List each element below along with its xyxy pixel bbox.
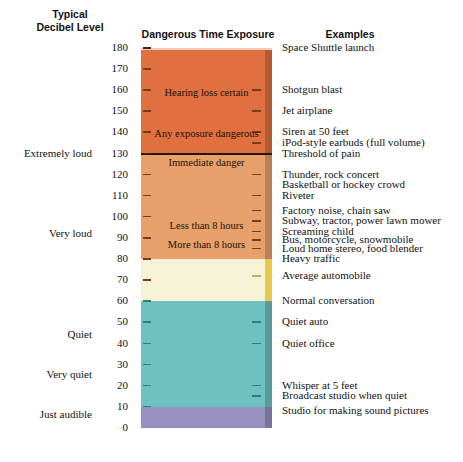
- example-label-2: Jet airplane: [282, 104, 332, 116]
- axis-tick-right-20: [252, 385, 261, 387]
- category-label-very-quiet: Very quiet: [0, 368, 92, 380]
- axis-tick-label-140: 140: [96, 125, 128, 137]
- exposure-label-2: Immediate danger: [141, 157, 272, 168]
- example-label-21: Studio for making sound pictures: [282, 404, 429, 416]
- band-quiet: [141, 301, 272, 407]
- axis-tick-label-0: 0: [96, 421, 128, 433]
- axis-tick-left-50: [143, 321, 151, 323]
- decibel-color-bar: [141, 48, 272, 428]
- bar-top-highlight: [141, 48, 272, 50]
- axis-tick-label-150: 150: [96, 104, 128, 116]
- example-label-5: Threshold of pain: [282, 147, 360, 159]
- exposure-label-3: Less than 8 hours: [141, 220, 272, 231]
- example-label-14: Heavy traffic: [282, 252, 340, 264]
- axis-tick-right-110: [252, 195, 261, 197]
- band-bevel-quiet: [265, 301, 272, 407]
- axis-tick-left-100: [143, 216, 151, 218]
- axis-tick-label-10: 10: [96, 400, 128, 412]
- axis-tick-left-40: [143, 343, 151, 345]
- category-label-quiet: Quiet: [0, 328, 92, 340]
- axis-tick-left-120: [143, 174, 151, 176]
- band-just-audible: [141, 407, 272, 428]
- axis-tick-label-20: 20: [96, 379, 128, 391]
- axis-tick-label-130: 130: [96, 147, 128, 159]
- axis-tick-left-90: [143, 237, 151, 239]
- axis-tick-label-60: 60: [96, 294, 128, 306]
- axis-tick-right-103: [252, 210, 261, 212]
- example-label-17: Quiet auto: [282, 315, 328, 327]
- axis-tick-left-150: [143, 110, 151, 112]
- category-label-very-loud: Very loud: [0, 227, 92, 239]
- axis-tick-left-110: [143, 195, 151, 197]
- axis-tick-label-180: 180: [96, 41, 128, 53]
- axis-tick-left-130: [143, 153, 151, 155]
- axis-tick-label-70: 70: [96, 273, 128, 285]
- divider-line-130db: [141, 153, 272, 155]
- axis-tick-right-135: [252, 142, 261, 144]
- band-bevel-moderate: [265, 259, 272, 301]
- axis-tick-right-150: [252, 110, 261, 112]
- example-label-1: Shotgun blast: [282, 83, 342, 95]
- example-label-16: Normal conversation: [282, 294, 375, 306]
- axis-tick-label-100: 100: [96, 210, 128, 222]
- axis-tick-left-180: [143, 47, 151, 49]
- axis-tick-left-70: [143, 279, 151, 281]
- axis-tick-label-120: 120: [96, 168, 128, 180]
- axis-tick-left-30: [143, 364, 151, 366]
- band-moderate: [141, 259, 272, 301]
- axis-tick-left-20: [143, 385, 151, 387]
- axis-tick-label-50: 50: [96, 315, 128, 327]
- axis-tick-label-90: 90: [96, 231, 128, 243]
- example-label-0: Space Shuttle launch: [282, 41, 374, 53]
- axis-tick-label-160: 160: [96, 83, 128, 95]
- axis-tick-label-170: 170: [96, 62, 128, 74]
- example-label-15: Average automobile: [282, 269, 371, 281]
- axis-tick-left-80: [143, 258, 151, 260]
- axis-tick-label-30: 30: [96, 358, 128, 370]
- axis-tick-label-110: 110: [96, 189, 128, 201]
- category-label-just-audible: Just audible: [0, 408, 92, 420]
- band-bevel-just-audible: [265, 407, 272, 428]
- axis-tick-right-72: [252, 275, 261, 277]
- axis-tick-left-170: [143, 68, 151, 70]
- example-label-20: Broadcast studio when quiet: [282, 389, 407, 401]
- example-label-18: Quiet office: [282, 337, 335, 349]
- axis-tick-left-60: [143, 300, 151, 302]
- example-label-8: Riveter: [282, 189, 314, 201]
- axis-tick-label-40: 40: [96, 337, 128, 349]
- exposure-label-0: Hearing loss certain: [141, 87, 272, 98]
- axis-tick-right-120: [252, 174, 261, 176]
- axis-tick-right-40: [252, 343, 261, 345]
- exposure-label-1: Any exposure dangerous: [141, 128, 272, 139]
- decibel-scale-chart: 0102030405060708090100110120130140150160…: [0, 0, 463, 462]
- category-label-extremely-loud: Extremely loud: [0, 147, 92, 159]
- axis-tick-right-15: [252, 395, 261, 397]
- exposure-label-4: More than 8 hours: [141, 239, 272, 250]
- axis-tick-left-10: [143, 406, 151, 408]
- axis-tick-right-50: [252, 321, 261, 323]
- axis-tick-label-80: 80: [96, 252, 128, 264]
